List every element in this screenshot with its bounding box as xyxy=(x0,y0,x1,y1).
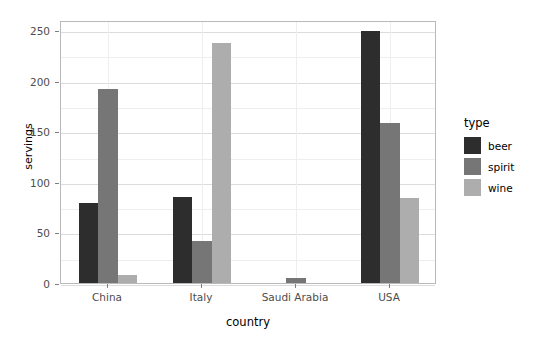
bar-chart: servings 050100150200250 ChinaItalySaudi… xyxy=(0,0,543,338)
x-tick-mark xyxy=(201,284,202,288)
bar-italy-wine xyxy=(212,43,231,283)
bar-italy-spirit xyxy=(192,241,211,283)
y-tick-label: 100 xyxy=(10,177,50,189)
y-tick-mark xyxy=(55,31,59,32)
bar-italy-beer xyxy=(173,197,192,283)
bars-layer xyxy=(61,22,435,283)
y-tick-label: 0 xyxy=(10,278,50,290)
x-axis-title: country xyxy=(60,315,436,329)
x-tick-mark xyxy=(107,284,108,288)
legend-label-beer: beer xyxy=(488,140,512,152)
gridline-major xyxy=(61,285,435,286)
legend-title: type xyxy=(464,116,514,130)
legend-label-wine: wine xyxy=(488,182,513,194)
legend-swatch-spirit xyxy=(464,158,481,175)
y-axis-ticks: 050100150200250 xyxy=(0,0,60,338)
bar-saudi-arabia-spirit xyxy=(286,278,305,283)
bar-usa-spirit xyxy=(380,123,399,283)
x-tick-label: USA xyxy=(378,291,400,303)
y-tick-mark xyxy=(55,284,59,285)
y-tick-mark xyxy=(55,183,59,184)
y-tick-mark xyxy=(55,132,59,133)
y-tick-mark xyxy=(55,233,59,234)
bar-usa-beer xyxy=(361,31,380,283)
legend-item-beer: beer xyxy=(464,136,514,155)
legend-entries: beerspiritwine xyxy=(464,136,514,197)
x-tick-mark xyxy=(295,284,296,288)
y-tick-label: 50 xyxy=(10,227,50,239)
legend-item-spirit: spirit xyxy=(464,157,514,176)
legend-item-wine: wine xyxy=(464,178,514,197)
y-tick-label: 200 xyxy=(10,76,50,88)
plot-panel xyxy=(60,21,436,284)
x-tick-mark xyxy=(389,284,390,288)
y-tick-mark xyxy=(55,82,59,83)
bar-china-beer xyxy=(79,203,98,283)
x-tick-label: Italy xyxy=(190,291,213,303)
legend-swatch-wine xyxy=(464,179,481,196)
bar-usa-wine xyxy=(400,198,419,283)
legend-swatch-beer xyxy=(464,137,481,154)
legend: type beerspiritwine xyxy=(464,116,514,199)
x-tick-label: China xyxy=(92,291,122,303)
x-tick-label: Saudi Arabia xyxy=(262,291,329,303)
bar-china-wine xyxy=(118,275,137,283)
y-tick-label: 150 xyxy=(10,126,50,138)
y-tick-label: 250 xyxy=(10,25,50,37)
bar-china-spirit xyxy=(98,89,117,283)
legend-label-spirit: spirit xyxy=(488,161,514,173)
